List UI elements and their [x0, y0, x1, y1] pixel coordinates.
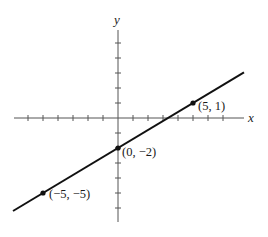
data-line: [13, 72, 244, 211]
point-label-0-neg2: (0, −2): [122, 145, 156, 159]
point-label-neg5-neg5: (−5, −5): [49, 187, 90, 201]
coordinate-plane-figure: x y (5, 1) (0, −2) (−5, −5): [0, 0, 268, 237]
y-axis-label: y: [112, 12, 120, 27]
point-marker: [40, 190, 45, 195]
point-marker: [190, 100, 195, 105]
point-marker: [115, 145, 120, 150]
point-label-5-1: (5, 1): [198, 99, 225, 113]
graph-canvas: x y (5, 1) (0, −2) (−5, −5): [0, 0, 268, 237]
x-axis-label: x: [247, 110, 254, 125]
